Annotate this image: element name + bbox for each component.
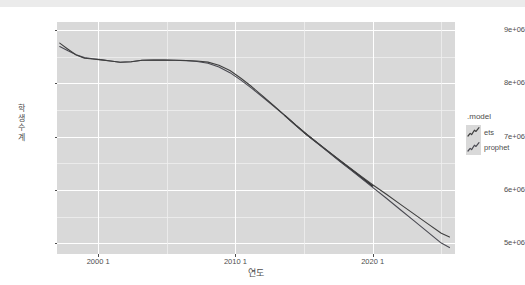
line-zigzag-icon: [466, 140, 481, 155]
legend-entry[interactable]: ets: [466, 125, 524, 140]
x-tick-label: 2010 1: [224, 258, 247, 266]
legend-entry-label: prophet: [484, 143, 509, 152]
legend: .model etsprophet: [466, 112, 524, 155]
y-axis-title-char: 학: [14, 104, 28, 114]
line-zigzag-icon: [466, 125, 481, 140]
x-tick-label: 2000 1: [87, 258, 110, 266]
y-tick-label: 9e+06: [479, 26, 525, 34]
y-tick-label: 8e+06: [479, 79, 525, 87]
y-tick-mark: [55, 30, 58, 31]
legend-entry-label: ets: [484, 128, 494, 137]
y-axis-title-char: 수: [14, 123, 28, 133]
legend-title: .model: [466, 112, 524, 122]
y-tick-mark: [55, 190, 58, 191]
x-tick-mark: [98, 254, 99, 257]
series-layer: [57, 22, 455, 254]
series-line-ets: [60, 43, 450, 237]
legend-entry[interactable]: prophet: [466, 140, 524, 155]
y-tick-mark: [55, 83, 58, 84]
x-tick-label: 2020 1: [361, 258, 384, 266]
y-tick-label: 6e+06: [479, 186, 525, 194]
x-axis-title: 연도: [57, 268, 455, 279]
plot-panel: [57, 22, 455, 254]
forecast-line-chart: 5e+066e+067e+068e+069e+06 학생수계 2000 1201…: [0, 0, 525, 285]
y-axis-title-char: 계: [14, 133, 28, 143]
x-tick-mark: [373, 254, 374, 257]
legend-entries: etsprophet: [466, 125, 524, 155]
y-tick-mark: [55, 137, 58, 138]
y-axis-title-char: 생: [14, 114, 28, 124]
y-tick-label: 5e+06: [479, 239, 525, 247]
y-tick-mark: [55, 243, 58, 244]
y-axis-title: 학생수계: [14, 104, 28, 142]
series-line-prophet: [60, 47, 450, 248]
x-tick-mark: [235, 254, 236, 257]
